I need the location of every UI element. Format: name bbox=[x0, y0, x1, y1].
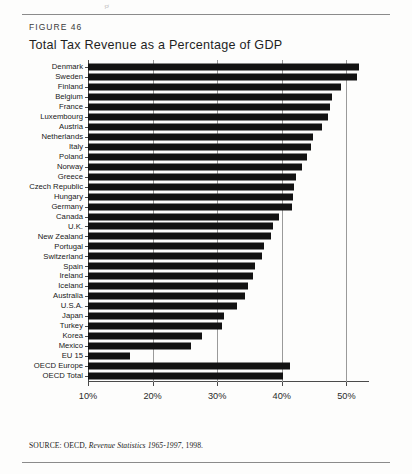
bar-row: U.K. bbox=[88, 222, 369, 232]
y-axis-category-label: France bbox=[59, 103, 83, 111]
bar bbox=[88, 123, 322, 130]
bar-row: Luxembourg bbox=[88, 112, 369, 122]
y-axis-category-label: New Zealand bbox=[38, 233, 83, 241]
y-axis-category-label: Belgium bbox=[55, 93, 83, 101]
y-axis-category-label: Mexico bbox=[59, 342, 83, 350]
bottom-rule-divider bbox=[22, 462, 390, 463]
x-tick-mark bbox=[217, 382, 218, 386]
bar-row: Korea bbox=[88, 331, 369, 341]
bar-row: Australia bbox=[88, 291, 369, 301]
bar bbox=[88, 333, 202, 340]
bar-row: Hungary bbox=[88, 192, 369, 202]
bar bbox=[88, 313, 224, 320]
bar-row: Greece bbox=[88, 172, 369, 182]
bar-row: Spain bbox=[88, 261, 369, 271]
y-axis-category-label: Netherlands bbox=[42, 133, 83, 141]
bar bbox=[88, 133, 313, 140]
bar-row: Czech Republic bbox=[88, 182, 369, 192]
bar-row: Portugal bbox=[88, 241, 369, 251]
bar bbox=[88, 363, 290, 370]
source-suffix: , 1998. bbox=[181, 441, 203, 450]
y-axis-category-label: U.K. bbox=[68, 223, 83, 231]
bar bbox=[88, 193, 293, 200]
bar bbox=[88, 243, 264, 250]
y-axis-category-label: EU 15 bbox=[62, 352, 83, 360]
bar bbox=[88, 263, 255, 270]
source-note: SOURCE: OECD, Revenue Statistics 1965-19… bbox=[29, 441, 203, 450]
x-tick-mark bbox=[88, 382, 89, 386]
y-axis-category-label: Hungary bbox=[54, 193, 83, 201]
figure-number-label: FIGURE 46 bbox=[29, 22, 82, 32]
bar-row: Finland bbox=[88, 82, 369, 92]
y-axis-category-label: Ireland bbox=[59, 272, 83, 280]
x-tick-mark bbox=[282, 382, 283, 386]
y-axis-category-label: Germany bbox=[51, 203, 83, 211]
source-prefix: SOURCE: OECD, bbox=[29, 441, 87, 450]
bar bbox=[88, 343, 191, 350]
bar-row: Italy bbox=[88, 142, 369, 152]
bar-chart: DenmarkSwedenFinlandBelgiumFranceLuxembo… bbox=[29, 60, 381, 412]
bar-row: Canada bbox=[88, 212, 369, 222]
bar bbox=[88, 283, 248, 290]
bar-row: Turkey bbox=[88, 321, 369, 331]
bar bbox=[88, 203, 292, 210]
bar bbox=[88, 233, 271, 240]
bar bbox=[88, 73, 357, 80]
bar bbox=[88, 183, 294, 190]
y-axis-category-label: U.S.A. bbox=[61, 302, 83, 310]
source-title: Revenue Statistics 1965-1997 bbox=[89, 441, 182, 450]
bar bbox=[88, 293, 245, 300]
y-axis-category-label: Japan bbox=[62, 312, 83, 320]
bar bbox=[88, 83, 341, 90]
bar bbox=[88, 373, 283, 380]
bar-row: Austria bbox=[88, 122, 369, 132]
bar-row: Switzerland bbox=[88, 251, 369, 261]
bar bbox=[88, 303, 237, 310]
bar bbox=[88, 323, 222, 330]
bar-row: OECD Total bbox=[88, 371, 369, 381]
y-axis-category-label: Poland bbox=[59, 153, 83, 161]
y-axis-category-label: Italy bbox=[69, 143, 83, 151]
bar-row: Belgium bbox=[88, 92, 369, 102]
bar bbox=[88, 163, 302, 170]
y-axis-category-label: Turkey bbox=[60, 322, 83, 330]
top-rule-divider bbox=[22, 14, 390, 15]
bar-rows: DenmarkSwedenFinlandBelgiumFranceLuxembo… bbox=[88, 62, 369, 381]
y-axis-category-label: Sweden bbox=[55, 73, 83, 81]
figure-title: Total Tax Revenue as a Percentage of GDP bbox=[29, 38, 282, 52]
bar bbox=[88, 223, 273, 230]
y-axis-category-label: Spain bbox=[63, 263, 83, 271]
bar-row: OECD Europe bbox=[88, 361, 369, 371]
x-axis-tick-label: 10% bbox=[79, 391, 97, 401]
y-axis-category-label: OECD Europe bbox=[34, 362, 83, 370]
bar bbox=[88, 93, 332, 100]
y-axis-category-label: Greece bbox=[58, 173, 83, 181]
x-tick-mark bbox=[346, 382, 347, 386]
y-axis-category-label: Iceland bbox=[58, 282, 83, 290]
scan-artifact-text: g bbox=[104, 0, 150, 9]
x-axis-tick-label: 20% bbox=[143, 391, 161, 401]
y-axis-category-label: Denmark bbox=[52, 63, 83, 71]
bar-row: Iceland bbox=[88, 281, 369, 291]
bar-row: Japan bbox=[88, 311, 369, 321]
bar bbox=[88, 213, 279, 220]
bar-row: Germany bbox=[88, 202, 369, 212]
bar-row: Ireland bbox=[88, 271, 369, 281]
bar bbox=[88, 253, 262, 260]
bar-row: France bbox=[88, 102, 369, 112]
y-axis-category-label: Czech Republic bbox=[29, 183, 83, 191]
y-axis-category-label: Korea bbox=[62, 332, 83, 340]
bar-row: Sweden bbox=[88, 72, 369, 82]
bar bbox=[88, 63, 359, 70]
bar bbox=[88, 153, 307, 160]
bar bbox=[88, 143, 311, 150]
bar-row: Poland bbox=[88, 152, 369, 162]
bar bbox=[88, 353, 130, 360]
y-axis-category-label: Norway bbox=[57, 163, 83, 171]
bar bbox=[88, 273, 253, 280]
bar-row: Mexico bbox=[88, 341, 369, 351]
bar bbox=[88, 103, 330, 110]
bar bbox=[88, 113, 328, 120]
bar-row: EU 15 bbox=[88, 351, 369, 361]
figure-page: g FIGURE 46 Total Tax Revenue as a Perce… bbox=[0, 0, 412, 474]
